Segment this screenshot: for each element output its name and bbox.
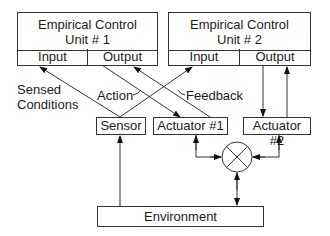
actuator1-junction-line [196,135,221,157]
sensor-box: Sensor [96,117,146,135]
feedback-leader [178,90,185,95]
action-label: Action [97,88,133,103]
feedback-label: Feedback [186,88,243,103]
empirical-control-unit-2: Empirical Control Unit # 2 Input Output [168,12,311,66]
action-leader [133,90,141,95]
sensed-label-line1: Sensed [17,82,61,97]
unit-2-output-port: Output [239,49,310,65]
empirical-control-unit-1: Empirical Control Unit # 1 Input Output [17,12,158,66]
unit-2-title-line1: Empirical Control [190,17,289,32]
unit-1-ports: Input Output [18,49,157,65]
actuator-1-box: Actuator #1 [153,117,228,135]
unit-2-title: Empirical Control Unit # 2 [169,13,310,51]
sensed-label-line2: Conditions [17,97,78,112]
environment-box: Environment [97,206,264,227]
actuator-2-box: Actuator #2 [243,117,311,135]
unit-2-title-line2: Unit # 2 [217,32,262,47]
unit-1-title: Empirical Control Unit # 1 [18,13,157,51]
unit-1-output-port: Output [87,49,157,65]
unit-1-title-line1: Empirical Control [38,17,137,32]
unit-2-ports: Input Output [169,49,310,65]
unit-1-input-port: Input [18,49,87,65]
unit-2-input-port: Input [169,49,239,65]
unit-1-title-line2: Unit # 1 [65,32,110,47]
